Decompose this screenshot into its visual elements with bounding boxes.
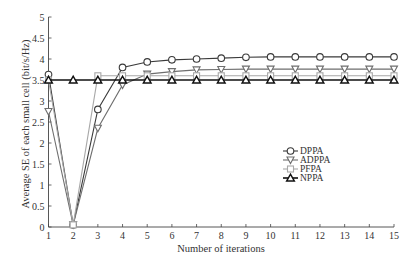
x-tick-label: 11: [290, 230, 300, 241]
circle-marker: [144, 59, 151, 66]
y-tick-label: 2.5: [32, 117, 45, 128]
triangle-up-marker: [287, 174, 295, 181]
x-tick-label: 15: [389, 230, 399, 241]
circle-marker: [95, 106, 102, 113]
y-tick-label: 0.5: [32, 201, 45, 212]
x-tick-label: 13: [340, 230, 350, 241]
y-tick-label: 0: [40, 222, 45, 233]
square-marker: [70, 222, 76, 228]
x-tick-label: 9: [243, 230, 248, 241]
chart-legend: DPPAADPPAPFPANPPA: [283, 146, 330, 183]
x-tick-label: 6: [169, 230, 174, 241]
x-tick-label: 8: [219, 230, 224, 241]
circle-marker: [292, 54, 299, 61]
triangle-up-marker: [69, 76, 77, 83]
y-axis-label: Average SE of each small cell (bit/s/Hz): [20, 39, 32, 208]
x-tick-label: 12: [315, 230, 325, 241]
x-tick-label: 2: [71, 230, 76, 241]
x-tick-label: 1: [46, 230, 51, 241]
circle-marker: [193, 56, 200, 63]
triangle-down-marker: [94, 125, 101, 132]
y-tick-label: 5: [40, 12, 45, 23]
y-tick-label: 4: [40, 54, 45, 65]
x-tick-label: 7: [194, 230, 199, 241]
y-tick-label: 1: [40, 180, 45, 191]
circle-marker: [243, 54, 250, 61]
x-tick-label: 4: [120, 230, 125, 241]
x-tick-label: 14: [364, 230, 374, 241]
circle-marker: [341, 54, 348, 61]
series-adppa: [45, 66, 398, 228]
chart-axes: [49, 17, 395, 227]
triangle-down-marker: [45, 109, 52, 116]
line-chart: 00.511.522.533.544.55 123456789101112131…: [0, 0, 418, 265]
x-tick-label: 5: [145, 230, 150, 241]
circle-marker: [391, 54, 398, 61]
circle-marker: [287, 148, 294, 155]
circle-marker: [119, 64, 126, 71]
y-tick-label: 3: [40, 96, 45, 107]
y-tick-label: 2: [40, 138, 45, 149]
circle-marker: [366, 54, 373, 61]
square-marker: [288, 166, 294, 172]
y-tick-label: 1.5: [32, 159, 45, 170]
x-tick-label: 10: [266, 230, 276, 241]
x-tick-label: 3: [95, 230, 100, 241]
series-nppa: [45, 76, 398, 83]
y-tick-label: 3.5: [32, 75, 45, 86]
circle-marker: [218, 55, 225, 62]
legend-item-nppa: NPPA: [283, 173, 324, 183]
circle-marker: [267, 54, 274, 61]
y-tick-label: 4.5: [32, 33, 45, 44]
circle-marker: [169, 57, 176, 64]
x-axis-label: Number of iterations: [177, 243, 264, 254]
data-series: [45, 54, 398, 229]
circle-marker: [317, 54, 324, 61]
legend-label: NPPA: [300, 173, 324, 183]
series-pfpa: [46, 73, 398, 228]
